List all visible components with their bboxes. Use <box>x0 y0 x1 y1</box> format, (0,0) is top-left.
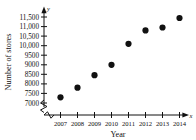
x-tick-label-2007: 2007 <box>54 120 68 127</box>
y-axis: y <box>41 5 50 107</box>
scatter-chart: y x 7000 7500 <box>0 0 196 140</box>
y-tick-label-11500: 11,500 <box>20 14 40 22</box>
data-point-2011 <box>125 41 131 47</box>
x-axis-arrowhead <box>182 112 189 117</box>
x-tick-labels: 2007 2008 2009 2010 2011 2012 2013 2014 <box>54 120 187 127</box>
y-tick-label-7000: 7000 <box>25 100 40 108</box>
data-point-2010 <box>108 62 114 68</box>
x-tick-label-2009: 2009 <box>88 120 102 127</box>
y-axis-title: Number of stores <box>4 34 13 91</box>
chart-canvas: y x 7000 7500 <box>0 0 196 140</box>
y-tick-label-9000: 9000 <box>25 61 40 69</box>
x-tick-label-2010: 2010 <box>105 120 119 127</box>
data-point-2009 <box>91 72 97 78</box>
y-tick-label-10500: 10,500 <box>19 33 39 41</box>
data-point-2008 <box>74 85 80 91</box>
data-points <box>57 15 182 101</box>
data-point-2012 <box>142 27 148 33</box>
y-tick-label-9500: 9500 <box>25 52 40 60</box>
data-point-2007 <box>57 94 63 100</box>
data-point-2014 <box>176 15 182 21</box>
y-axis-variable-label: y <box>46 5 50 12</box>
x-axis-variable-label: x <box>189 112 193 119</box>
x-axis-title: Year <box>110 130 125 139</box>
y-tick-labels: 7000 7500 8000 8500 9000 9500 10,000 10,… <box>19 14 39 108</box>
x-tick-label-2008: 2008 <box>71 120 85 127</box>
x-tick-label-2014: 2014 <box>173 120 187 127</box>
x-tick-label-2012: 2012 <box>139 120 152 127</box>
x-tick-label-2013: 2013 <box>156 120 170 127</box>
y-axis-arrowhead <box>41 7 46 14</box>
x-axis: x <box>44 112 193 119</box>
y-tick-label-8500: 8500 <box>25 71 40 79</box>
y-tick-label-7500: 7500 <box>25 90 40 98</box>
data-point-2013 <box>159 24 165 30</box>
y-tick-label-10000: 10,000 <box>19 42 39 50</box>
y-tick-label-11000: 11,000 <box>20 23 40 31</box>
y-tick-label-8000: 8000 <box>25 80 40 88</box>
x-tick-label-2011: 2011 <box>122 120 135 127</box>
